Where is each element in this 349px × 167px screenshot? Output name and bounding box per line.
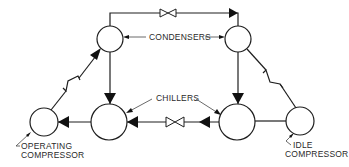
operating-compressor-discharge-pipe xyxy=(51,52,99,110)
chillers-label-group: CHILLERS xyxy=(126,93,221,115)
operating-compressor-node xyxy=(30,108,58,136)
operating-compressor-label-group: OPERATING COMPRESSOR xyxy=(16,132,84,160)
left-arrow-icon xyxy=(127,116,138,128)
idle-compressor-label-line2: COMPRESSOR xyxy=(285,149,348,159)
flow-arrow-icon xyxy=(90,48,101,60)
chiller-left-node xyxy=(91,104,127,140)
idle-compressor-discharge-pipe xyxy=(247,49,296,108)
idle-compressor-node xyxy=(286,107,314,135)
down-arrow-icon xyxy=(232,93,244,104)
idle-compressor-label-group: IDLE COMPRESSOR xyxy=(285,133,348,159)
condensers-label-group: CONDENSERS xyxy=(123,32,225,42)
operating-compressor-label-line2: COMPRESSOR xyxy=(21,150,84,160)
refrigeration-flow-diagram: CONDENSERS CHILLERS OPERATING COMPRESSOR… xyxy=(0,0,349,167)
condensers-label: CONDENSERS xyxy=(149,32,211,42)
left-arrow-icon xyxy=(199,116,210,128)
down-arrow-icon xyxy=(104,93,116,104)
chiller-right-node xyxy=(219,104,255,140)
chillers-label: CHILLERS xyxy=(156,93,199,103)
left-arrow-icon xyxy=(58,116,69,128)
chiller-crossover-valve-icon xyxy=(166,117,184,127)
condenser-right-node xyxy=(225,26,251,52)
condenser-crossover-valve-icon xyxy=(160,9,176,17)
condenser-left-node xyxy=(97,26,123,52)
